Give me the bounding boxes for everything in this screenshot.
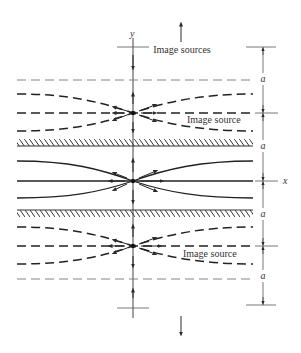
- y-axis: y: [117, 28, 149, 318]
- lower-image-source-label: Image source: [183, 248, 237, 259]
- source-node: [131, 179, 135, 183]
- dimension-line: [246, 47, 278, 305]
- lower-wall: [17, 210, 253, 217]
- source-streamlines: [17, 161, 253, 198]
- dimension-a-3: a: [261, 208, 266, 219]
- upper-image-source-node: [131, 111, 135, 115]
- dimension-a-4: a: [261, 270, 266, 281]
- image-sources-label: Image sources: [153, 44, 211, 55]
- lower-image-source-node: [131, 244, 135, 248]
- y-axis-label: y: [129, 28, 135, 39]
- diagram-svg: y Image sources Image source: [0, 0, 301, 353]
- x-axis-label: x: [282, 175, 288, 186]
- upper-image-source-label: Image source: [187, 114, 241, 125]
- image-sources-annotation: Image sources: [153, 24, 211, 55]
- dimension-a-1: a: [261, 73, 266, 84]
- image-source-diagram: y Image sources Image source: [0, 0, 301, 353]
- upper-wall: [17, 139, 253, 146]
- dimension-a-2: a: [261, 140, 266, 151]
